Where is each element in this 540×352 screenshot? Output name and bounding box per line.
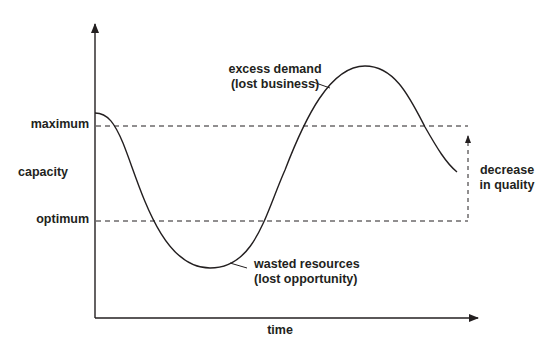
time-label: time [250,323,310,338]
demand-curve [95,66,457,268]
decrease-line1: decrease [474,163,540,178]
wasted-resources-leader [230,263,247,268]
capacity-demand-diagram [0,0,540,352]
wasted-resources-line2: (lost opportunity) [254,272,360,287]
optimum-label: optimum [20,212,89,227]
capacity-label: capacity [18,165,68,180]
maximum-label: maximum [20,117,89,132]
decrease-quality-label: decrease in quality [474,163,540,193]
excess-demand-line2: (lost business) [220,77,330,92]
excess-demand-label: excess demand (lost business) [220,62,330,92]
wasted-resources-line1: wasted resources [254,257,360,272]
excess-demand-line1: excess demand [220,62,330,77]
wasted-resources-label: wasted resources (lost opportunity) [254,257,360,287]
decrease-line2: in quality [474,178,540,193]
